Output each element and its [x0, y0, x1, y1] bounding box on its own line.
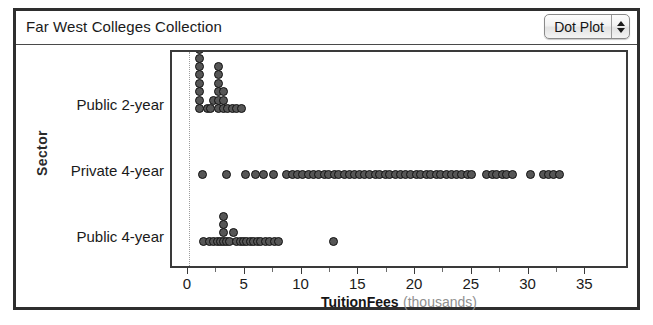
x-axis-units: (thousands): [403, 294, 477, 310]
y-axis-category-label: Public 4-year: [24, 228, 164, 245]
x-axis-tick-label: 30: [508, 275, 548, 292]
x-axis-tick: [471, 268, 472, 274]
plot-type-dropdown[interactable]: Dot Plot: [544, 14, 630, 39]
data-point[interactable]: [219, 228, 228, 237]
window-title-bar: Far West Colleges Collection Dot Plot: [16, 11, 637, 45]
x-axis-tick-label: 15: [337, 275, 377, 292]
x-axis-minor-tick: [215, 268, 216, 272]
data-point[interactable]: [195, 96, 204, 105]
x-axis-tick: [244, 268, 245, 274]
x-axis-tick-label: 10: [281, 275, 321, 292]
data-point[interactable]: [555, 170, 564, 179]
zero-reference-gridline: [189, 52, 190, 266]
x-axis-minor-tick: [329, 268, 330, 272]
data-point[interactable]: [219, 212, 228, 221]
y-axis-category-label: Public 2-year: [24, 96, 164, 113]
x-axis: 05101520253035: [170, 268, 628, 269]
data-point[interactable]: [269, 170, 278, 179]
data-point[interactable]: [241, 170, 250, 179]
data-point[interactable]: [274, 237, 283, 246]
stepper-down-icon[interactable]: [617, 28, 625, 33]
plot-type-value[interactable]: Dot Plot: [545, 15, 611, 38]
x-axis-tick-label: 25: [451, 275, 491, 292]
x-axis-tick-label: 35: [564, 275, 604, 292]
y-axis-category-label: Private 4-year: [24, 162, 164, 179]
data-point[interactable]: [526, 170, 535, 179]
x-axis-tick: [357, 268, 358, 274]
x-axis-minor-tick: [499, 268, 500, 272]
data-point[interactable]: [198, 170, 207, 179]
plot-frame: [170, 50, 628, 268]
graph-area: Sector Public 2-yearPrivate 4-yearPublic…: [16, 45, 637, 307]
data-point[interactable]: [195, 62, 204, 71]
data-point[interactable]: [508, 170, 517, 179]
x-axis-tick-label: 20: [394, 275, 434, 292]
data-point[interactable]: [259, 170, 268, 179]
data-point[interactable]: [195, 79, 204, 88]
y-axis-category-labels: Public 2-yearPrivate 4-yearPublic 4-year: [16, 45, 164, 307]
x-axis-tick: [301, 268, 302, 274]
x-axis-tick: [528, 268, 529, 274]
data-point[interactable]: [195, 54, 204, 63]
collection-window: Far West Colleges Collection Dot Plot Se…: [13, 8, 640, 310]
x-axis-title: TuitionFees: [321, 294, 399, 310]
x-axis-tick: [584, 268, 585, 274]
stepper-up-icon[interactable]: [617, 21, 625, 26]
x-axis-tick: [187, 268, 188, 274]
collection-title: Far West Colleges Collection: [26, 18, 222, 35]
data-point[interactable]: [467, 170, 476, 179]
x-axis-title-group: TuitionFees (thousands): [170, 293, 628, 311]
data-point[interactable]: [222, 170, 231, 179]
data-point[interactable]: [237, 104, 246, 113]
data-point[interactable]: [214, 62, 223, 71]
x-axis-minor-tick: [386, 268, 387, 272]
data-point[interactable]: [195, 87, 204, 96]
x-axis-minor-tick: [272, 268, 273, 272]
x-axis-minor-tick: [556, 268, 557, 272]
x-axis-tick-label: 0: [167, 275, 207, 292]
data-point[interactable]: [214, 70, 223, 79]
data-point[interactable]: [219, 220, 228, 229]
x-axis-minor-tick: [442, 268, 443, 272]
data-point[interactable]: [219, 87, 228, 96]
data-point[interactable]: [229, 228, 238, 237]
data-point[interactable]: [195, 70, 204, 79]
plot-type-stepper[interactable]: [611, 15, 629, 38]
data-point[interactable]: [329, 237, 338, 246]
x-axis-tick: [414, 268, 415, 274]
x-axis-tick-label: 5: [224, 275, 264, 292]
